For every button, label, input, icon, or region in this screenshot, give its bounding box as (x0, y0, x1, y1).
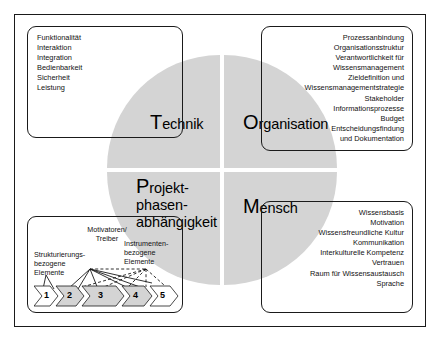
phase-number-5: 5 (160, 290, 165, 300)
phase-number-2: 2 (67, 290, 72, 300)
quadrant-initial-organisation: O (243, 111, 258, 133)
label-instrumentenbezogene-elemente: Instrumenten- bezogene Elemente (124, 239, 168, 267)
box-organisation: Prozessanbindung Organisationsstruktur V… (261, 26, 413, 151)
quadrant-initial-mensch: M (243, 195, 260, 217)
diagram-canvas: Technik Organisation Projekt- phasen- ab… (0, 0, 441, 345)
phase-number-1: 1 (44, 290, 49, 300)
label-strukturierungsbezogene-elemente: Strukturierungs- bezogene Elemente (34, 250, 85, 278)
phase-chevron-row: 1 2 3 4 5 (34, 285, 180, 307)
box-technik: Funktionalität Interaktion Integration B… (27, 26, 183, 138)
organisation-item-list: Prozessanbindung Organisationsstruktur V… (305, 33, 404, 144)
mensch-item-list: Wissensbasis Motivation Wissensfreundlic… (310, 208, 404, 289)
quadrant-initial-projekt: P (136, 175, 149, 197)
technik-item-list: Funktionalität Interaktion Integration B… (37, 33, 82, 94)
phase-number-3: 3 (98, 290, 103, 300)
box-mensch: Wissensbasis Motivation Wissensfreundlic… (261, 201, 413, 313)
phase-number-4: 4 (133, 290, 138, 300)
phase-chevrons (34, 285, 180, 307)
box-projektphasen: Strukturierungs- bezogene Elemente Motiv… (27, 216, 183, 313)
